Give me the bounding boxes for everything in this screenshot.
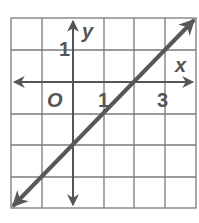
origin-label: O	[47, 89, 63, 111]
x-axis-label: x	[174, 54, 187, 76]
y-axis-label: y	[81, 20, 94, 42]
coordinate-graph: y x O 1 1 3	[0, 0, 199, 223]
y-tick-label-1: 1	[59, 38, 70, 60]
x-tick-label-1: 1	[98, 89, 109, 111]
x-tick-label-3: 3	[157, 89, 168, 111]
